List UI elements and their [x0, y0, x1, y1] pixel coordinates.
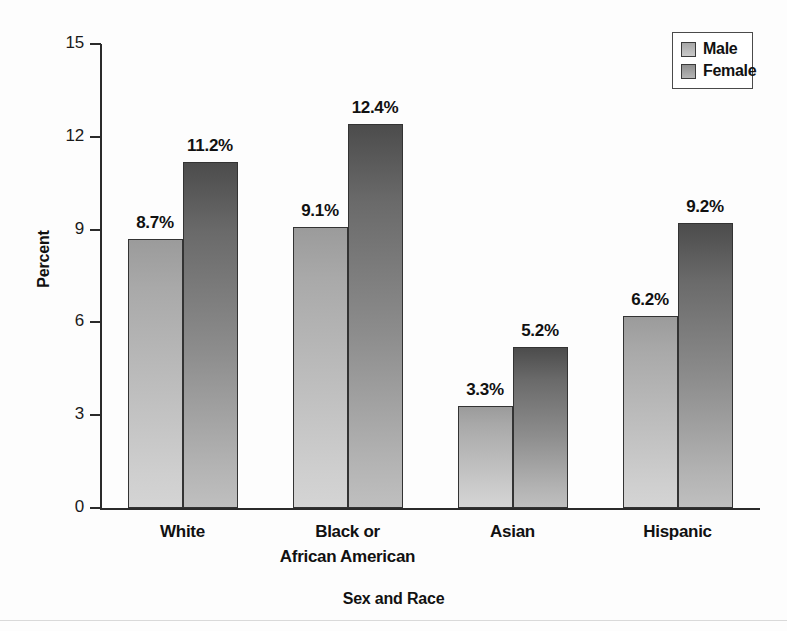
y-axis-tick-mark	[90, 229, 101, 231]
y-axis-tick-label: 9	[48, 219, 84, 239]
y-axis-tick-mark	[90, 136, 101, 138]
y-axis-title: Percent	[35, 199, 53, 319]
y-axis-tick-mark	[90, 414, 101, 416]
bar-male-0[interactable]	[128, 239, 183, 508]
bar-value-label: 11.2%	[170, 136, 250, 156]
bottom-divider	[0, 620, 787, 621]
x-axis-title: Sex and Race	[0, 590, 787, 608]
legend-label-male: Male	[703, 40, 737, 58]
legend-item-male[interactable]: Male	[681, 40, 744, 58]
y-axis-tick-label: 3	[48, 404, 84, 424]
y-axis-tick-label: 15	[48, 33, 84, 53]
y-axis-tick-label: 0	[48, 497, 84, 517]
category-label-3: Hispanic	[588, 520, 768, 545]
y-axis-tick-mark	[90, 507, 101, 509]
plot-area: 03691215 Percent Sex and Race 8.7%11.2%9…	[0, 0, 787, 631]
chart-figure: 03691215 Percent Sex and Race 8.7%11.2%9…	[0, 0, 787, 631]
bar-value-label: 9.2%	[665, 197, 745, 217]
bar-female-1[interactable]	[348, 124, 403, 508]
bar-male-1[interactable]	[293, 227, 348, 508]
legend-item-female[interactable]: Female	[681, 62, 744, 80]
bar-value-label: 12.4%	[335, 98, 415, 118]
legend-swatch-female-icon	[681, 64, 696, 79]
category-label-line: Hispanic	[643, 522, 711, 541]
y-axis-line	[100, 44, 102, 510]
category-label-0: White	[93, 520, 273, 545]
category-label-1: Black orAfrican American	[258, 520, 438, 569]
category-label-line: Black or	[315, 522, 380, 541]
bar-value-label: 5.2%	[500, 321, 580, 341]
bar-male-3[interactable]	[623, 316, 678, 508]
x-axis-line	[100, 508, 760, 510]
bar-male-2[interactable]	[458, 406, 513, 508]
legend-swatch-male-icon	[681, 42, 696, 57]
bar-female-2[interactable]	[513, 347, 568, 508]
y-axis-tick-mark	[90, 321, 101, 323]
category-label-line: African American	[280, 547, 415, 566]
y-axis-tick-mark	[90, 43, 101, 45]
category-label-line: Asian	[490, 522, 535, 541]
bar-female-0[interactable]	[183, 162, 238, 508]
category-label-2: Asian	[423, 520, 603, 545]
y-axis-tick-label: 6	[48, 311, 84, 331]
legend[interactable]: Male Female	[672, 32, 753, 89]
legend-label-female: Female	[703, 62, 756, 80]
y-axis-tick-label: 12	[48, 126, 84, 146]
bar-female-3[interactable]	[678, 223, 733, 508]
category-label-line: White	[160, 522, 205, 541]
